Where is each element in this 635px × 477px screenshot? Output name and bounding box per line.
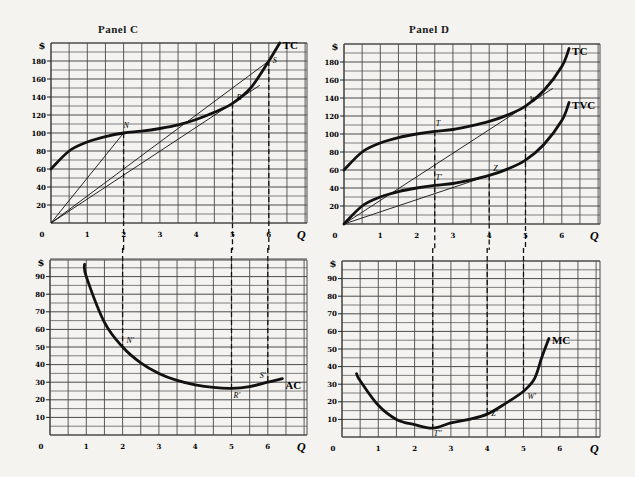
x-tick-label: 4: [193, 442, 198, 451]
y-tick-label: 30: [327, 380, 337, 389]
y-tick-label: 100: [31, 129, 46, 138]
x-tick-label: 5: [523, 231, 528, 240]
mc-label: MC: [552, 334, 570, 346]
y-tick-label: 140: [324, 94, 339, 103]
y-tick-label: 180: [31, 57, 46, 66]
point-label: T: [436, 119, 441, 128]
ac-label: AC: [285, 379, 301, 391]
y-tick-label: 80: [327, 292, 337, 301]
q-axis-label: Q: [590, 229, 599, 243]
y-tick-label: 50: [35, 343, 45, 352]
y-tick-label: 20: [329, 202, 339, 211]
panel-c-title: Panel C: [98, 23, 138, 35]
y-tick-label: 30: [35, 378, 45, 387]
origin-label: 0: [331, 444, 336, 453]
x-tick-label: 3: [450, 231, 455, 240]
y-tick-label: 90: [35, 272, 45, 281]
mc-curve: [357, 338, 549, 428]
x-tick-label: 5: [229, 442, 234, 451]
y-tick-label: 60: [329, 166, 339, 175]
y-tick-label: 160: [31, 75, 46, 84]
y-tick-label: 20: [327, 397, 337, 406]
y-tick-label: 20: [35, 395, 45, 404]
point-label: N: [123, 121, 130, 130]
y-tick-label: 70: [35, 307, 45, 316]
dollar-axis-label: $: [39, 40, 46, 51]
x-tick-label: 1: [84, 442, 89, 451]
x-tick-label: 4: [194, 230, 199, 239]
tc-label: TC: [283, 39, 298, 51]
y-tick-label: 140: [31, 93, 46, 102]
tc-label: TC: [572, 45, 587, 57]
panel-d-bottom-grid: [342, 261, 600, 437]
point-label: S: [273, 56, 277, 65]
x-tick-label: 4: [487, 231, 492, 240]
x-tick-label: 4: [485, 444, 490, 453]
y-tick-label: 80: [329, 148, 339, 157]
point-label: N′: [126, 336, 134, 345]
y-tick-label: 60: [36, 165, 46, 174]
y-tick-label: 10: [327, 415, 337, 424]
y-tick-label: 120: [31, 111, 46, 120]
point-label: R: [236, 93, 242, 102]
q-axis-label: Q: [590, 442, 599, 456]
x-tick-label: 1: [376, 444, 381, 453]
x-tick-label: 1: [85, 230, 90, 239]
y-tick-label: 100: [324, 130, 339, 139]
y-tick-label: 60: [327, 327, 337, 336]
origin-label: 0: [40, 230, 45, 239]
dollar-axis-label: $: [38, 257, 45, 268]
y-tick-label: 70: [327, 309, 337, 318]
x-tick-label: 2: [121, 230, 126, 239]
point-label: Z′: [491, 409, 497, 418]
x-tick-label: 1: [378, 231, 383, 240]
origin-label: 0: [333, 231, 338, 240]
point-label: S′: [260, 371, 266, 380]
y-tick-label: 180: [324, 58, 339, 67]
x-tick-label: 3: [156, 442, 161, 451]
y-tick-label: 120: [324, 112, 339, 121]
q-axis-label: Q: [297, 228, 306, 242]
y-tick-label: 40: [35, 360, 45, 369]
cost-curves-figure: 20406080100120140160180$1234560QTCNRS204…: [0, 0, 635, 477]
point-label: T″: [434, 429, 442, 438]
y-tick-label: 160: [324, 76, 339, 85]
y-tick-label: 90: [327, 274, 337, 283]
x-tick-label: 2: [120, 442, 125, 451]
x-tick-label: 3: [157, 230, 162, 239]
point-label: T′: [436, 173, 442, 182]
y-tick-label: 20: [36, 201, 46, 210]
y-tick-label: 80: [36, 147, 46, 156]
tvc-label: TVC: [572, 99, 595, 111]
y-tick-label: 60: [35, 325, 45, 334]
x-tick-label: 6: [265, 442, 270, 451]
x-tick-label: 5: [521, 444, 526, 453]
y-tick-label: 40: [327, 362, 337, 371]
y-tick-label: 40: [36, 183, 46, 192]
y-tick-label: 40: [329, 184, 339, 193]
q-axis-label: Q: [297, 440, 306, 454]
x-tick-label: 6: [559, 231, 564, 240]
point-label: Z: [493, 164, 498, 173]
x-tick-label: 2: [412, 444, 417, 453]
x-tick-label: 6: [266, 230, 271, 239]
y-tick-label: 80: [35, 290, 45, 299]
point-label: R′: [233, 391, 241, 400]
x-tick-label: 2: [414, 231, 419, 240]
y-tick-label: 10: [35, 413, 45, 422]
ac-curve: [84, 264, 282, 388]
dollar-axis-label: $: [332, 41, 339, 52]
origin-label: 0: [39, 442, 44, 451]
dollar-axis-label: $: [330, 258, 337, 269]
x-tick-label: 6: [557, 444, 562, 453]
y-tick-label: 50: [327, 345, 337, 354]
point-label: W′: [528, 392, 537, 401]
panel-d-title: Panel D: [409, 23, 449, 35]
x-tick-label: 3: [448, 444, 453, 453]
x-tick-label: 5: [230, 230, 235, 239]
